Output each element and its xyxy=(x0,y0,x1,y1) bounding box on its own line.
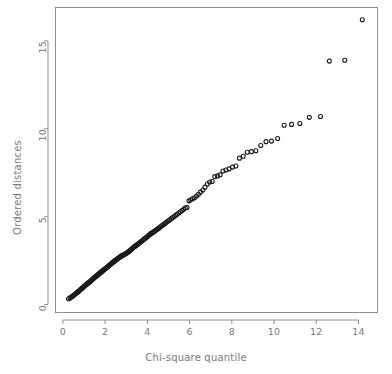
x-tick-label: 4 xyxy=(144,326,150,337)
x-tick-label: 14 xyxy=(352,326,365,337)
data-points-layer xyxy=(67,18,365,301)
data-point xyxy=(270,139,274,143)
data-point xyxy=(298,122,302,126)
data-point xyxy=(318,114,322,118)
x-tick-label: 12 xyxy=(310,326,323,337)
y-axis-label-text: Ordered distances xyxy=(12,140,23,235)
data-point xyxy=(360,18,364,22)
data-point xyxy=(254,149,258,153)
data-point xyxy=(343,58,347,62)
data-point xyxy=(264,140,268,144)
x-tick-label: 2 xyxy=(102,326,108,337)
x-tick-label: 6 xyxy=(186,326,192,337)
qq-plot-figure: 02468101214 051015 Chi-square quantile O… xyxy=(0,0,392,374)
y-axis-label: Ordered distances xyxy=(10,0,24,374)
data-point xyxy=(241,154,245,158)
data-point xyxy=(276,136,280,140)
y-tick-label: 15 xyxy=(37,41,48,54)
x-axis-label: Chi-square quantile xyxy=(0,352,392,363)
data-point xyxy=(245,150,249,154)
plot-canvas xyxy=(0,0,392,374)
data-point xyxy=(282,123,286,127)
data-point xyxy=(327,59,331,63)
x-tick-label: 10 xyxy=(268,326,281,337)
data-point xyxy=(307,115,311,119)
y-tick-label: 0 xyxy=(37,305,48,311)
y-tick-label: 10 xyxy=(37,129,48,142)
x-tick-label: 8 xyxy=(229,326,235,337)
data-point xyxy=(259,144,263,148)
data-point xyxy=(290,122,294,126)
data-point xyxy=(249,150,253,154)
data-point xyxy=(210,180,214,184)
x-tick-label: 0 xyxy=(60,326,66,337)
y-tick-label: 5 xyxy=(37,217,48,223)
